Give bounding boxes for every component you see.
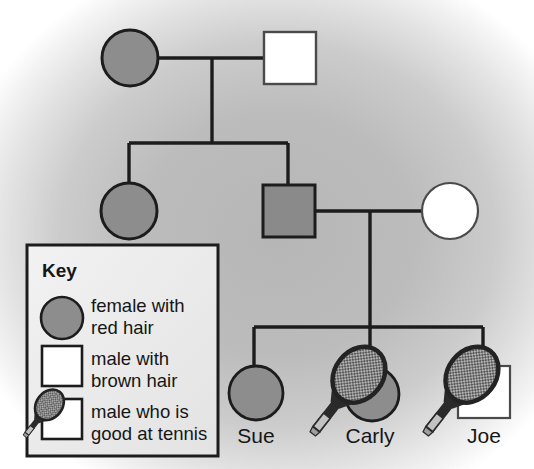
label-joe: Joe <box>467 424 501 447</box>
pedigree-canvas: Sue Carly Joe Key female with red hair m… <box>0 0 534 469</box>
key-entry-2-line1: male who is <box>91 401 189 422</box>
key-symbol-open-square <box>42 346 82 386</box>
key-symbol-filled-circle <box>41 297 83 339</box>
individual-sue[interactable] <box>229 366 283 420</box>
key-entry-1-line2: brown hair <box>91 370 177 391</box>
individual-g1-mother[interactable] <box>102 30 158 86</box>
key-entry-0-line1: female with <box>91 295 185 316</box>
key-entry-1-line1: male with <box>91 348 169 369</box>
label-carly: Carly <box>345 424 395 447</box>
individual-g2-son[interactable] <box>263 185 315 237</box>
key-title: Key <box>42 260 77 281</box>
key-entry-0-line2: red hair <box>91 317 154 338</box>
key-box: Key female with red hair male with brown… <box>15 245 218 456</box>
individual-g2-daughter[interactable] <box>101 183 157 239</box>
pedigree-figure: Sue Carly Joe Key female with red hair m… <box>0 0 534 469</box>
individual-g2-son-partner[interactable] <box>422 183 478 239</box>
label-sue: Sue <box>237 424 274 447</box>
key-entry-2-line2: good at tennis <box>91 423 207 444</box>
individual-g1-father[interactable] <box>264 32 316 84</box>
